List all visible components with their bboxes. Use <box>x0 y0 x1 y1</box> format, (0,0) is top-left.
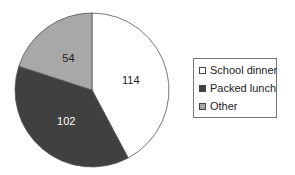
legend-swatch-icon <box>199 103 206 110</box>
slice-value-label: 114 <box>122 74 140 86</box>
legend-swatch-icon <box>199 85 206 92</box>
legend-label: Packed lunch <box>210 82 276 94</box>
slice-value-label: 102 <box>57 115 75 127</box>
legend-label: School dinner <box>210 64 277 76</box>
slice-value-label: 54 <box>62 52 74 64</box>
legend-swatch-icon <box>199 67 206 74</box>
legend-label: Other <box>210 100 238 112</box>
pie-chart: 11410254 <box>0 0 190 175</box>
legend-item-packed-lunch: Packed lunch <box>199 81 276 95</box>
legend-item-other: Other <box>199 99 238 113</box>
legend-item-school-dinner: School dinner <box>199 63 277 77</box>
legend: School dinner Packed lunch Other <box>193 58 277 118</box>
